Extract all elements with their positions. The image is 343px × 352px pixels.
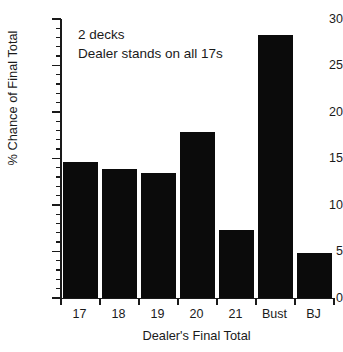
y-tick-major (52, 111, 61, 113)
x-tick (138, 298, 140, 305)
x-tick-label: 18 (99, 308, 138, 321)
bar-chart: 051015202530 1718192021BustBJ 2 decks De… (0, 0, 343, 352)
y-tick-minor (56, 102, 61, 103)
y-tick-minor (56, 167, 61, 168)
y-tick-minor (56, 93, 61, 94)
y-tick-minor (56, 74, 61, 75)
y-tick-major (52, 65, 61, 67)
y-tick-major (52, 204, 61, 206)
y-tick-minor (56, 186, 61, 187)
y-tick-minor (56, 279, 61, 280)
x-tick-label: 20 (177, 308, 216, 321)
bar (297, 253, 332, 298)
bar (63, 162, 98, 298)
y-tick-minor (56, 130, 61, 131)
y-tick-minor (56, 260, 61, 261)
bar (102, 169, 137, 298)
y-tick-minor (56, 83, 61, 84)
y-tick-major (52, 251, 61, 253)
x-tick-label: 19 (138, 308, 177, 321)
y-tick-major (52, 18, 61, 20)
y-tick-minor (56, 241, 61, 242)
bar (180, 132, 215, 298)
y-tick-label: 25 (297, 59, 343, 72)
y-tick-minor (56, 176, 61, 177)
y-tick-minor (56, 121, 61, 122)
y-tick-minor (56, 288, 61, 289)
x-tick-label: BJ (294, 308, 333, 321)
x-tick (294, 298, 296, 305)
y-tick-minor (56, 223, 61, 224)
y-tick-label: 10 (297, 199, 343, 212)
y-tick-minor (56, 269, 61, 270)
x-tick (333, 298, 335, 305)
y-tick-minor (56, 232, 61, 233)
x-tick (99, 298, 101, 305)
y-tick-minor (56, 28, 61, 29)
y-tick-minor (56, 37, 61, 38)
x-tick (177, 298, 179, 305)
x-tick-label: 17 (60, 308, 99, 321)
x-tick (216, 298, 218, 305)
x-tick (60, 298, 62, 305)
y-tick-label: 15 (297, 152, 343, 165)
annotation-line-2: Dealer stands on all 17s (78, 45, 223, 64)
bar (258, 35, 293, 298)
bar (141, 173, 176, 298)
bar (219, 230, 254, 298)
y-axis-title-wrapper: % Chance of Final Total (6, 0, 26, 198)
y-tick-minor (56, 195, 61, 196)
y-axis-title: % Chance of Final Total (6, 0, 20, 198)
x-tick-label: 21 (216, 308, 255, 321)
x-tick (255, 298, 257, 305)
y-tick-minor (56, 214, 61, 215)
x-tick-label: Bust (255, 308, 294, 321)
chart-annotation: 2 decks Dealer stands on all 17s (78, 26, 223, 63)
y-tick-minor (56, 55, 61, 56)
y-tick-minor (56, 139, 61, 140)
y-tick-major (52, 158, 61, 160)
y-tick-label: 20 (297, 106, 343, 119)
x-axis-title: Dealer's Final Total (60, 329, 333, 343)
annotation-line-1: 2 decks (78, 26, 223, 45)
y-tick-minor (56, 148, 61, 149)
y-tick-label: 30 (297, 13, 343, 26)
y-tick-minor (56, 46, 61, 47)
